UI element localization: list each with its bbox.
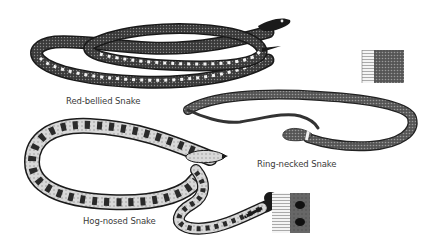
label-hog-nosed-snake: Hog-nosed Snake bbox=[83, 216, 156, 226]
hog-nosed-head bbox=[186, 150, 226, 162]
hog-nosed-snake bbox=[32, 125, 275, 229]
label-ring-necked-snake: Ring-necked Snake bbox=[257, 159, 337, 169]
red-bellied-snake bbox=[36, 18, 290, 82]
scale-swatch-hog-nosed bbox=[272, 193, 310, 233]
scale-swatch-ring-necked bbox=[362, 50, 404, 83]
red-bellied-head bbox=[258, 18, 290, 31]
snake-illustration: Red-bellied Snake Ring-necked Snake Hog-… bbox=[0, 0, 441, 246]
ring-necked-snake bbox=[188, 95, 413, 147]
illustration-canvas bbox=[0, 0, 441, 246]
label-red-bellied-snake: Red-bellied Snake bbox=[66, 96, 140, 106]
